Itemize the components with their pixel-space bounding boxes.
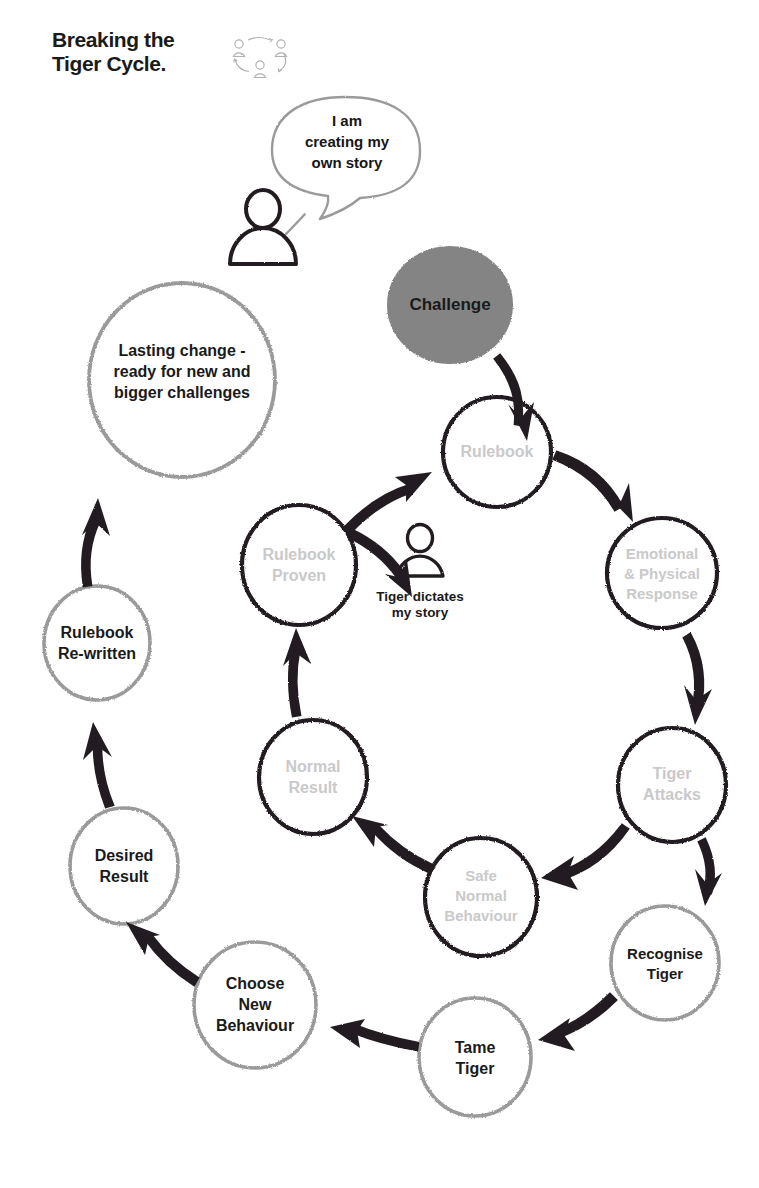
bubble-line-1: I am <box>332 112 362 129</box>
node-rulebook-proven[interactable]: Rulebook Proven <box>242 505 356 625</box>
node-desired-result-line-1: Desired <box>95 847 154 864</box>
node-tame-tiger-line-1: Tame <box>455 1039 496 1056</box>
node-rulebook-proven-line-1: Rulebook <box>263 546 336 563</box>
arrow-tame-tiger-to-choose-new <box>330 1019 418 1050</box>
node-safe-normal-behaviour[interactable]: Safe Normal Behaviour <box>425 838 537 956</box>
arrow-tiger-attacks-to-recognise <box>695 839 722 906</box>
node-recognise-tiger-line-2: Tiger <box>647 965 684 982</box>
node-lasting-change-line-2: ready for new and <box>114 363 251 380</box>
node-recognise-tiger-line-1: Recognise <box>627 945 703 962</box>
node-desired-result[interactable]: Desired Result <box>70 808 178 924</box>
node-challenge-label: Challenge <box>409 295 490 314</box>
person-empowered <box>230 190 296 264</box>
arrow-rulebook-to-emotional <box>554 452 633 522</box>
arrow-tiger-attacks-to-safe-normal <box>541 825 628 890</box>
node-choose-new-line-2: New <box>239 996 272 1013</box>
i-am-creating-my-own-story-bubble: I am creating my own story <box>272 97 420 219</box>
arrow-recognise-to-tame-tiger <box>538 994 616 1051</box>
node-emotional-physical-response[interactable]: Emotional & Physical Response <box>607 518 717 628</box>
tiger-cycle-diagram: I am creating my own story Tiger dictate… <box>0 0 759 1188</box>
node-choose-new-line-1: Choose <box>226 975 285 992</box>
arrow-emotional-to-tiger-attacks <box>684 634 712 725</box>
node-emotional-line-1: Emotional <box>626 545 699 562</box>
node-safe-normal-line-2: Normal <box>455 887 507 904</box>
node-lasting-change-line-3: bigger challenges <box>114 384 250 401</box>
arrow-normal-result-to-rulebook-proven <box>283 628 311 716</box>
arrow-desired-result-to-rulebook-rewritten <box>83 722 113 807</box>
node-normal-result-line-2: Result <box>289 779 339 796</box>
node-recognise-tiger[interactable]: Recognise Tiger <box>611 906 719 1020</box>
node-rulebook-label: Rulebook <box>461 443 534 460</box>
node-normal-result[interactable]: Normal Result <box>259 720 367 834</box>
node-emotional-line-3: Response <box>626 585 698 602</box>
person-caption-line-1: Tiger dictates <box>376 589 464 604</box>
node-desired-result-line-2: Result <box>100 868 150 885</box>
person-caption-line-2: my story <box>392 605 449 620</box>
bubble-line-3: own story <box>312 154 383 171</box>
node-tiger-attacks-line-2: Attacks <box>643 786 701 803</box>
node-rulebook[interactable]: Rulebook <box>443 397 551 507</box>
bubble-line-2: creating my <box>305 133 390 150</box>
node-rulebook-rewritten-line-2: Re-written <box>58 645 136 662</box>
node-choose-new-behaviour[interactable]: Choose New Behaviour <box>194 942 316 1068</box>
arrow-safe-normal-to-normal-result <box>352 816 432 872</box>
node-safe-normal-line-1: Safe <box>465 867 497 884</box>
node-emotional-line-2: & Physical <box>624 565 700 582</box>
node-tiger-attacks-line-1: Tiger <box>653 765 692 782</box>
node-lasting-change[interactable]: Lasting change - ready for new and bigge… <box>89 283 275 477</box>
node-challenge[interactable]: Challenge <box>388 247 512 363</box>
node-tame-tiger-line-2: Tiger <box>456 1060 495 1077</box>
person-tiger-dictates: Tiger dictates my story <box>376 525 464 621</box>
node-tiger-attacks[interactable]: Tiger Attacks <box>618 728 726 842</box>
node-normal-result-line-1: Normal <box>285 758 340 775</box>
node-choose-new-line-3: Behaviour <box>216 1017 294 1034</box>
arrow-choose-new-to-desired-result <box>126 922 198 985</box>
node-lasting-change-line-1: Lasting change - <box>118 342 245 359</box>
arrow-rulebook-rewritten-to-lasting-change <box>82 498 110 586</box>
node-safe-normal-line-3: Behaviour <box>444 907 518 924</box>
node-rulebook-re-written[interactable]: Rulebook Re-written <box>44 586 150 700</box>
bubble-tail <box>285 214 305 235</box>
node-rulebook-rewritten-line-1: Rulebook <box>61 624 134 641</box>
node-tame-tiger[interactable]: Tame Tiger <box>419 998 531 1116</box>
node-rulebook-proven-line-2: Proven <box>272 567 326 584</box>
three-people-cycle-logo <box>233 38 286 78</box>
